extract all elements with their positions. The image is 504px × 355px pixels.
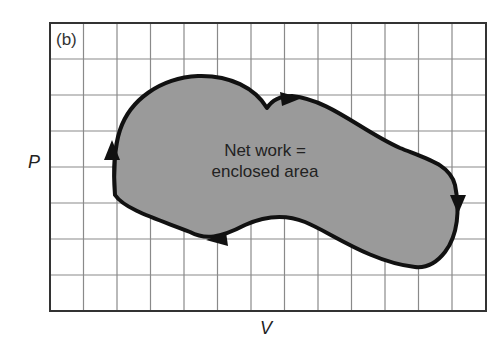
net-work-annotation: Net work = enclosed area [195, 140, 335, 182]
y-axis-label: P [28, 152, 40, 173]
annotation-line-2: enclosed area [195, 161, 335, 182]
annotation-line-1: Net work = [195, 140, 335, 161]
x-axis-label: V [260, 318, 272, 339]
panel-label: (b) [56, 30, 77, 50]
